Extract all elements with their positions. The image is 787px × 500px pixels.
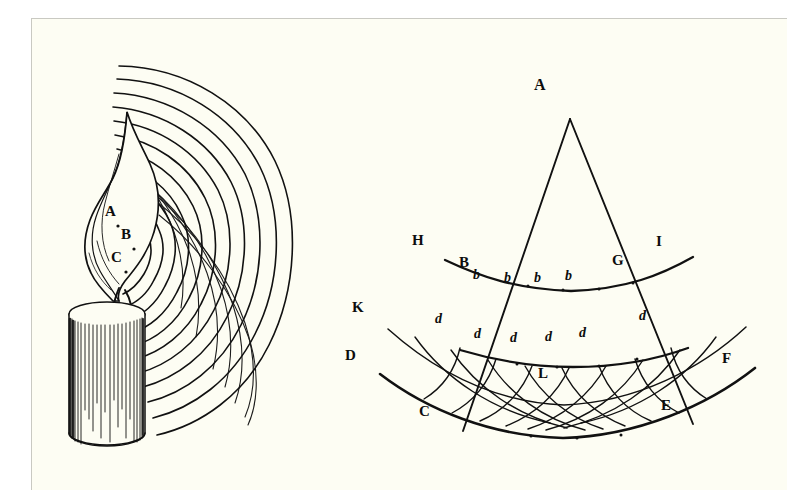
- label-d-3: d: [545, 330, 552, 344]
- label-d-left: d: [435, 312, 442, 326]
- label-D: D: [345, 348, 356, 363]
- label-d-right: d: [639, 309, 646, 323]
- label-b-4: b: [565, 269, 572, 283]
- label-b-3: b: [534, 271, 541, 285]
- label-d-1: d: [474, 327, 481, 341]
- figure-left-candle: [31, 18, 331, 473]
- figure-right-construction: [331, 61, 771, 461]
- label-E: E: [661, 398, 671, 413]
- label-d-4: d: [579, 326, 586, 340]
- label-K: K: [352, 300, 364, 315]
- label-H: H: [412, 233, 424, 248]
- page-canvas: A B C: [0, 0, 787, 500]
- label-B: B: [459, 255, 469, 270]
- label-b-1: b: [473, 268, 480, 282]
- label-C: C: [419, 404, 430, 419]
- label-I: I: [656, 234, 662, 249]
- label-A: A: [534, 77, 546, 93]
- label-L: L: [538, 366, 548, 381]
- label-d-2: d: [510, 331, 517, 345]
- label-b-2: b: [504, 271, 511, 285]
- flame-label-dots: [102, 204, 162, 294]
- label-G: G: [612, 253, 624, 268]
- label-F: F: [722, 351, 731, 366]
- arc-tick-dots: [516, 282, 639, 440]
- plate-sheet: A B C: [31, 18, 787, 490]
